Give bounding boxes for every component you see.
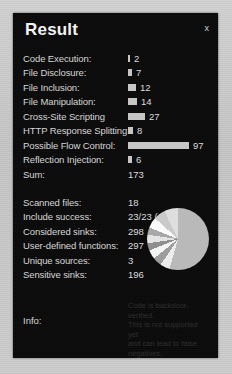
info-label: Info: bbox=[23, 299, 128, 326]
statistic-label: Scanned files: bbox=[23, 197, 128, 208]
vulnerability-row: File Manipulation:14 bbox=[23, 95, 208, 110]
vulnerability-bar bbox=[128, 142, 189, 149]
vulnerability-value: 97 bbox=[193, 140, 204, 151]
close-icon[interactable]: x bbox=[205, 24, 210, 33]
statistic-value: 297 bbox=[128, 240, 144, 251]
vulnerability-bar bbox=[128, 113, 145, 120]
sinks-pie-chart bbox=[147, 208, 209, 270]
info-text: Code is backdoor-verified. This is not s… bbox=[128, 299, 208, 358]
vulnerability-value: 12 bbox=[140, 82, 151, 93]
statistic-value: 18 bbox=[128, 197, 139, 208]
page-title: Result bbox=[25, 20, 78, 40]
vulnerability-value: 6 bbox=[136, 154, 141, 165]
vulnerability-bar bbox=[128, 156, 132, 163]
vulnerability-label: File Manipulation: bbox=[23, 96, 128, 107]
vulnerability-label: Reflection Injection: bbox=[23, 154, 128, 165]
vulnerability-bar bbox=[128, 84, 136, 91]
statistic-label: Include success: bbox=[23, 211, 128, 222]
statistic-value: 196 bbox=[128, 269, 144, 280]
vulnerability-value: 14 bbox=[141, 96, 152, 107]
vulnerability-row: HTTP Response Splitting:8 bbox=[23, 124, 208, 139]
vulnerability-row: Cross-Site Scripting27 bbox=[23, 109, 208, 124]
statistics-section: Scanned files:18Include success:23/23 (1… bbox=[23, 195, 208, 282]
statistic-label: Sensitive sinks: bbox=[23, 269, 128, 280]
statistic-label: Unique sources: bbox=[23, 255, 128, 266]
vulnerability-bar bbox=[128, 69, 132, 76]
result-dialog: Result x Code Execution:2File Disclosure… bbox=[13, 13, 218, 358]
vulnerability-bar-wrap: 8 bbox=[128, 125, 208, 136]
vulnerability-label: File Inclusion: bbox=[23, 82, 128, 93]
vulnerability-bar-wrap: 14 bbox=[128, 96, 208, 107]
vulnerability-label: Cross-Site Scripting bbox=[23, 111, 128, 122]
vulnerability-row: File Disclosure:7 bbox=[23, 66, 208, 81]
statistic-label: User-defined functions: bbox=[23, 240, 128, 251]
vulnerability-row: Reflection Injection:6 bbox=[23, 153, 208, 168]
vulnerability-bar-wrap: 12 bbox=[128, 82, 208, 93]
vulnerability-value: 2 bbox=[134, 53, 139, 64]
statistic-label: Considered sinks: bbox=[23, 226, 128, 237]
vulnerability-bar-wrap: 97 bbox=[128, 140, 208, 151]
vulnerability-bar-wrap: 27 bbox=[128, 111, 208, 122]
vulnerability-bar bbox=[128, 55, 130, 62]
dialog-content: Code Execution:2File Disclosure:7File In… bbox=[13, 51, 218, 358]
vulnerability-bar-wrap: 6 bbox=[128, 154, 208, 165]
vulnerability-label: HTTP Response Splitting: bbox=[23, 125, 128, 136]
sum-row: Sum: 173 bbox=[23, 167, 208, 182]
statistic-value: 298 bbox=[128, 226, 144, 237]
sum-label: Sum: bbox=[23, 169, 128, 180]
vulnerability-bar-chart: Code Execution:2File Disclosure:7File In… bbox=[23, 51, 208, 167]
vulnerability-row: Code Execution:2 bbox=[23, 51, 208, 66]
vulnerability-bar-wrap: 2 bbox=[128, 53, 208, 64]
vulnerability-value: 27 bbox=[149, 111, 160, 122]
vulnerability-bar bbox=[128, 127, 133, 134]
vulnerability-row: File Inclusion:12 bbox=[23, 80, 208, 95]
statistic-value: 3 bbox=[128, 255, 133, 266]
vulnerability-value: 7 bbox=[136, 67, 141, 78]
sum-value: 173 bbox=[128, 169, 144, 180]
vulnerability-bar bbox=[128, 98, 137, 105]
info-section: Info: Code is backdoor-verified. This is… bbox=[23, 299, 208, 358]
vulnerability-label: Possible Flow Control: bbox=[23, 140, 128, 151]
vulnerability-row: Possible Flow Control:97 bbox=[23, 138, 208, 153]
vulnerability-label: File Disclosure: bbox=[23, 67, 128, 78]
vulnerability-value: 8 bbox=[137, 125, 142, 136]
vulnerability-bar-wrap: 7 bbox=[128, 67, 208, 78]
dialog-titlebar: Result x bbox=[13, 13, 218, 46]
vulnerability-label: Code Execution: bbox=[23, 53, 128, 64]
